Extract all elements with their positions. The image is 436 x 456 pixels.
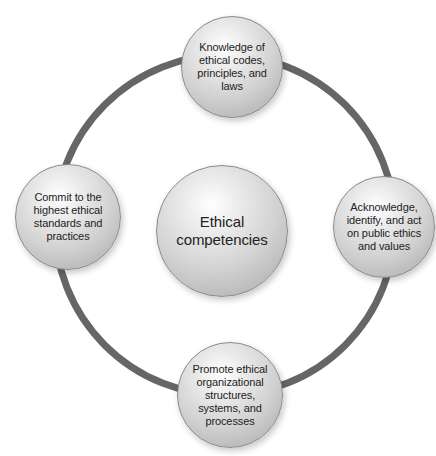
center-node-ethical-competencies: Ethical competencies xyxy=(156,165,288,297)
node-top-line: principles, and xyxy=(197,67,266,79)
node-left-line: practices xyxy=(46,230,89,242)
node-bottom-promote: Promote ethical organizational structure… xyxy=(177,342,283,448)
node-bottom-line: organizational xyxy=(196,376,263,388)
node-top-line: ethical codes, xyxy=(199,54,265,66)
center-title-line: Ethical xyxy=(200,213,244,230)
node-top-line: laws xyxy=(221,80,243,92)
node-right-acknowledge: Acknowledge, identify, and act on public… xyxy=(333,176,435,278)
node-bottom-line: systems, and xyxy=(198,402,262,414)
node-left-line: Commit to the xyxy=(34,191,101,203)
node-right-line: on public ethics xyxy=(347,227,421,239)
node-right-line: Acknowledge, xyxy=(350,201,417,213)
node-top-line: Knowledge of xyxy=(199,41,264,53)
node-bottom-line: structures, xyxy=(205,389,255,401)
node-left-line: highest ethical xyxy=(34,204,103,216)
node-right-line: identify, and act xyxy=(347,214,422,226)
node-left-line: standards and xyxy=(34,217,102,229)
node-left-commit: Commit to the highest ethical standards … xyxy=(15,164,121,270)
node-right-line: and values xyxy=(358,240,410,252)
center-title-line: competencies xyxy=(176,231,267,248)
node-top-knowledge: Knowledge of ethical codes, principles, … xyxy=(181,16,283,118)
node-bottom-line: Promote ethical xyxy=(193,363,268,375)
node-bottom-line: processes xyxy=(205,415,254,427)
